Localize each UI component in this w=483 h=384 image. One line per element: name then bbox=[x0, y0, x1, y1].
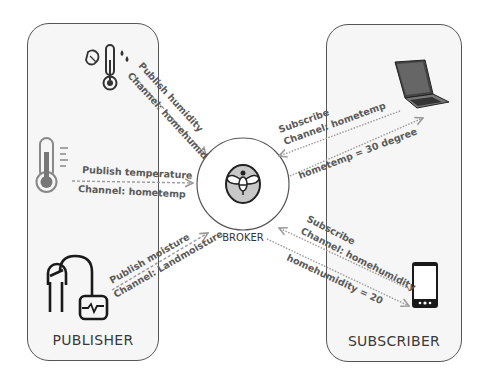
bee-icon bbox=[226, 165, 260, 203]
laptop-icon bbox=[395, 60, 449, 108]
thermometer-icon bbox=[37, 138, 69, 192]
broker-node bbox=[197, 138, 289, 230]
broker-label: BROKER bbox=[213, 232, 273, 243]
publish-temperature-label: Publish temperature bbox=[82, 164, 193, 181]
publish-temperature-channel: Channel: hometemp bbox=[78, 183, 186, 200]
soil-moisture-sensor-icon bbox=[48, 256, 107, 319]
subscribe-homehumidity-channel: Channel: homehumidity bbox=[299, 225, 418, 293]
humidity-thermometer-icon bbox=[86, 45, 129, 90]
diagram-canvas: Publish humidity Channel: homehumidity P… bbox=[0, 0, 483, 384]
